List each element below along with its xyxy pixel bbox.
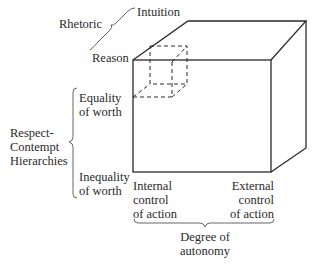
cube-right-face <box>271 21 306 172</box>
inequality-of-worth-label: Inequality of worth <box>79 170 130 198</box>
external-control-label: External control of action <box>218 179 274 221</box>
intuition-label: Intuition <box>137 5 180 19</box>
equality-of-worth-label: Equality of worth <box>79 91 122 119</box>
cube-front-face <box>133 60 271 172</box>
hierarchies-brace <box>69 88 77 198</box>
respect-contempt-hierarchies-label: Respect- Contempt Hierarchies <box>10 126 68 168</box>
reason-label: Reason <box>92 51 129 65</box>
cube-top-face <box>133 21 306 60</box>
outer-cube <box>133 21 306 172</box>
internal-control-label: Internal control of action <box>133 179 177 221</box>
degree-of-autonomy-label: Degree of autonomy <box>170 230 240 258</box>
rhetoric-label: Rhetoric <box>59 17 102 31</box>
